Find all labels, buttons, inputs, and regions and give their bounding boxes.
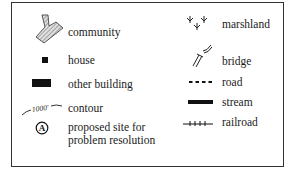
legend-label-railroad: railroad: [222, 116, 258, 128]
legend-label-proposed-site-line2: problem resolution: [68, 134, 155, 146]
legend-label-proposed-site-line1: proposed site for: [68, 121, 145, 133]
legend-label-marshland: marshland: [222, 18, 270, 30]
svg-text:1000': 1000': [31, 103, 49, 114]
legend-label-bridge: bridge: [222, 55, 251, 67]
railroad-icon: [182, 118, 214, 128]
legend-label-other-building: other building: [68, 78, 133, 90]
map-legend: community house other building 1000' con…: [11, 2, 284, 167]
svg-text:A: A: [39, 123, 46, 133]
legend-label-community: community: [68, 26, 120, 38]
legend-label-contour: contour: [68, 102, 103, 114]
house-icon: [42, 57, 48, 63]
road-icon: [188, 79, 214, 85]
bridge-icon: [190, 39, 214, 69]
contour-icon: 1000': [20, 101, 64, 119]
stream-icon: [188, 100, 213, 104]
other-building-icon: [32, 79, 51, 87]
legend-label-stream: stream: [222, 96, 253, 108]
community-icon: [32, 13, 68, 45]
legend-label-road: road: [222, 76, 242, 88]
marshland-icon: [186, 13, 210, 33]
legend-label-house: house: [68, 54, 95, 66]
proposed-site-icon: A: [35, 121, 49, 135]
